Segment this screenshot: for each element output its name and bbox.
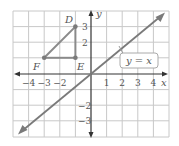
x-tick-label: 3 (135, 78, 141, 88)
label-d: D (64, 14, 73, 25)
label-f: F (32, 61, 41, 72)
point-d (73, 24, 78, 29)
x-tick-label: 1 (104, 78, 110, 88)
y-tick-label: 3 (82, 22, 88, 32)
y-axis-label: y (95, 8, 102, 19)
x-axis-left-arrow-icon (14, 72, 20, 77)
x-tick-label: −4 (22, 78, 36, 88)
point-f (42, 56, 47, 61)
y-tick-label: 2 (82, 38, 88, 48)
x-tick-label: −2 (53, 78, 66, 88)
y-tick-label: −3 (78, 116, 92, 126)
x-tick-label: 2 (119, 78, 125, 88)
y-tick-label: −2 (78, 101, 91, 111)
coordinate-plane: D E F y = x x y −4 −3 −2 1 2 3 4 3 2 −2 … (0, 0, 179, 146)
line-arrow-up-icon (156, 13, 166, 23)
label-e: E (76, 61, 85, 72)
line-arrow-down-icon (18, 125, 28, 135)
equation-label-box: y = x (119, 46, 158, 68)
point-e (73, 56, 78, 61)
x-tick-label: 4 (151, 78, 157, 88)
x-axis-label: x (161, 77, 167, 88)
equation-label: y = x (125, 55, 152, 66)
x-tick-label: −3 (38, 78, 52, 88)
x-axis-right-arrow-icon (162, 72, 168, 77)
